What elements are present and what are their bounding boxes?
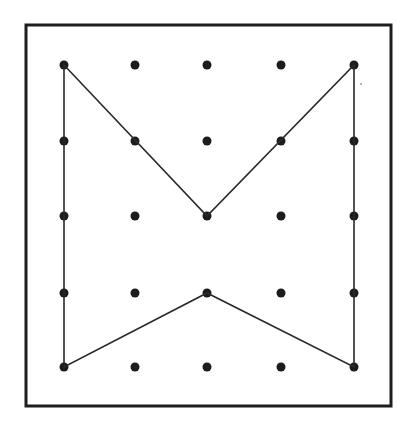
peg-r0-c2 — [203, 61, 212, 70]
peg-r3-c3 — [277, 289, 286, 298]
peg-r4-c1 — [131, 363, 140, 372]
peg-r2-c1 — [131, 212, 140, 221]
peg-r4-c2 — [203, 363, 212, 372]
geoboard-diagram — [0, 0, 411, 427]
peg-r0-c1 — [131, 61, 140, 70]
peg-r4-c3 — [277, 363, 286, 372]
peg-r2-c3 — [277, 212, 286, 221]
scan-speck — [360, 83, 362, 85]
peg-r3-c1 — [131, 289, 140, 298]
peg-r0-c3 — [277, 61, 286, 70]
peg-r1-c2 — [203, 137, 212, 146]
